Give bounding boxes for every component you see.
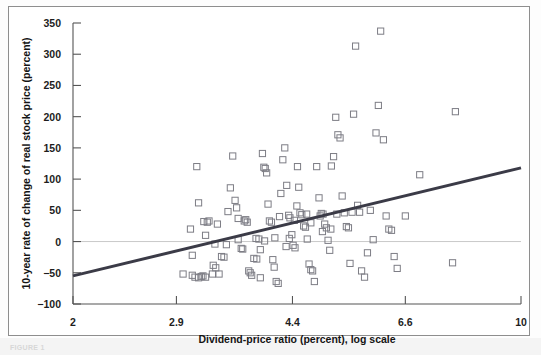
- data-point[interactable]: [361, 274, 367, 280]
- data-point[interactable]: [234, 205, 240, 211]
- data-point[interactable]: [270, 257, 276, 263]
- data-point[interactable]: [296, 184, 302, 190]
- data-point[interactable]: [357, 209, 363, 215]
- data-point[interactable]: [339, 193, 345, 199]
- data-point[interactable]: [210, 262, 216, 268]
- data-point[interactable]: [347, 260, 353, 266]
- y-tick-label-9: 350: [43, 17, 61, 29]
- y-tick-label-4: 100: [43, 173, 61, 185]
- data-point[interactable]: [273, 278, 279, 284]
- data-point[interactable]: [223, 242, 229, 248]
- data-point[interactable]: [330, 154, 336, 160]
- data-point[interactable]: [292, 245, 298, 251]
- data-point[interactable]: [294, 164, 300, 170]
- x-axis-title: Dividend-price ratio (percent), log scal…: [198, 333, 395, 345]
- x-tick-label-0: 2: [70, 316, 76, 328]
- data-points-group[interactable]: [180, 28, 459, 286]
- x-tick-label-4: 10: [515, 316, 527, 328]
- data-point[interactable]: [276, 213, 282, 219]
- data-point[interactable]: [187, 226, 193, 232]
- data-point[interactable]: [283, 243, 289, 249]
- data-point[interactable]: [314, 164, 320, 170]
- data-point[interactable]: [350, 111, 356, 117]
- data-point[interactable]: [297, 210, 303, 216]
- data-point[interactable]: [322, 221, 328, 227]
- data-point[interactable]: [194, 164, 200, 170]
- data-point[interactable]: [214, 221, 220, 227]
- data-point[interactable]: [209, 271, 215, 277]
- data-point[interactable]: [257, 247, 263, 253]
- data-point[interactable]: [294, 203, 300, 209]
- data-point[interactable]: [449, 260, 455, 266]
- data-point[interactable]: [383, 213, 389, 219]
- data-point[interactable]: [328, 163, 334, 169]
- y-tick-label-7: 250: [43, 79, 61, 91]
- scatter-plot: −100−5005010015020025030035022.94.46.610…: [0, 0, 541, 355]
- figure-caption: FIGURE 1: [10, 344, 45, 351]
- axis-labels-group: −100−5005010015020025030035022.94.46.610…: [20, 17, 527, 345]
- data-point[interactable]: [232, 197, 238, 203]
- data-point[interactable]: [272, 235, 278, 241]
- data-point[interactable]: [271, 264, 277, 270]
- data-point[interactable]: [402, 213, 408, 219]
- data-point[interactable]: [284, 182, 290, 188]
- data-point[interactable]: [311, 278, 317, 284]
- data-point[interactable]: [290, 242, 296, 248]
- x-tick-label-3: 6.6: [398, 316, 413, 328]
- data-point[interactable]: [316, 195, 322, 201]
- data-point[interactable]: [333, 114, 339, 120]
- y-tick-label-2: 0: [55, 236, 61, 248]
- data-point[interactable]: [417, 172, 423, 178]
- x-tick-label-2: 4.4: [285, 316, 300, 328]
- data-point[interactable]: [358, 268, 364, 274]
- data-point[interactable]: [235, 215, 241, 221]
- data-point[interactable]: [391, 253, 397, 259]
- data-point[interactable]: [282, 145, 288, 151]
- data-point[interactable]: [364, 250, 370, 256]
- data-point[interactable]: [327, 247, 333, 253]
- figure-page: −100−5005010015020025030035022.94.46.610…: [0, 0, 541, 355]
- data-point[interactable]: [265, 201, 271, 207]
- x-tick-label-1: 2.9: [169, 316, 184, 328]
- data-point[interactable]: [275, 280, 281, 286]
- y-tick-label-1: −50: [43, 267, 61, 279]
- data-point[interactable]: [189, 252, 195, 258]
- y-tick-label-8: 300: [43, 48, 61, 60]
- data-point[interactable]: [213, 265, 219, 271]
- data-point[interactable]: [280, 157, 286, 163]
- data-point[interactable]: [257, 275, 263, 281]
- y-tick-label-5: 150: [43, 142, 61, 154]
- data-point[interactable]: [289, 232, 295, 238]
- data-point[interactable]: [259, 150, 265, 156]
- y-tick-label-0: −100: [37, 298, 61, 310]
- data-point[interactable]: [216, 271, 222, 277]
- data-point[interactable]: [352, 43, 358, 49]
- data-point[interactable]: [394, 265, 400, 271]
- data-point[interactable]: [286, 235, 292, 241]
- data-point[interactable]: [380, 137, 386, 143]
- chart-svg: −100−5005010015020025030035022.94.46.610…: [0, 0, 541, 355]
- data-point[interactable]: [378, 28, 384, 34]
- y-tick-label-6: 200: [43, 111, 61, 123]
- data-point[interactable]: [227, 185, 233, 191]
- data-point[interactable]: [225, 208, 231, 214]
- data-point[interactable]: [319, 228, 325, 234]
- data-point[interactable]: [325, 237, 331, 243]
- data-point[interactable]: [195, 200, 201, 206]
- data-point[interactable]: [373, 130, 379, 136]
- data-point[interactable]: [452, 109, 458, 115]
- data-point[interactable]: [367, 207, 373, 213]
- y-tick-label-3: 50: [49, 204, 61, 216]
- data-point[interactable]: [247, 270, 253, 276]
- y-axis-title: 10-year rate of change of real stock pri…: [20, 37, 32, 289]
- data-point[interactable]: [180, 271, 186, 277]
- data-point[interactable]: [230, 153, 236, 159]
- data-point[interactable]: [202, 232, 208, 238]
- data-point[interactable]: [278, 190, 284, 196]
- data-point[interactable]: [375, 102, 381, 108]
